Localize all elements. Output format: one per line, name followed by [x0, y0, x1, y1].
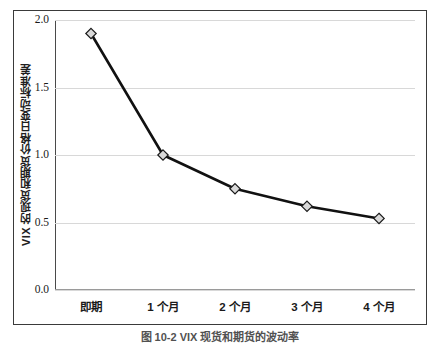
data-point-marker	[374, 213, 384, 223]
data-series-line	[55, 20, 415, 290]
x-tick-label-3: 3 个月	[291, 298, 323, 314]
y-axis-title: VIX 的现货和期货价格日变动标准差	[18, 20, 34, 290]
gridline-0-0	[55, 290, 415, 291]
x-tick-label-0: 即期	[80, 298, 102, 314]
series-markers	[86, 28, 384, 223]
y-tick-label-1-5: 1.5	[35, 82, 49, 94]
figure-container: VIX 的现货和期货价格日变动标准差 2.0 1.5 1.0 0.5 0.0 即…	[0, 0, 440, 344]
y-tick-label-1-0: 1.0	[35, 149, 49, 161]
y-tick-label-0-0: 0.0	[35, 284, 49, 296]
y-tick-label-2-0: 2.0	[35, 14, 49, 26]
figure-caption: 图 10-2 VIX 现货和期货的波动率	[0, 330, 440, 344]
x-tick-label-2: 2 个月	[219, 298, 251, 314]
y-tick-label-0-5: 0.5	[35, 217, 49, 229]
x-tick-label-1: 1 个月	[147, 298, 179, 314]
plot-area: 2.0 1.5 1.0 0.5 0.0	[55, 20, 415, 290]
data-point-marker	[230, 184, 240, 194]
y-axis-title-text: VIX 的现货和期货价格日变动标准差	[18, 64, 34, 246]
x-tick-label-4: 4 个月	[363, 298, 395, 314]
data-point-marker	[302, 201, 312, 211]
x-axis-tick-labels: 即期 1 个月 2 个月 3 个月 4 个月	[55, 298, 415, 318]
